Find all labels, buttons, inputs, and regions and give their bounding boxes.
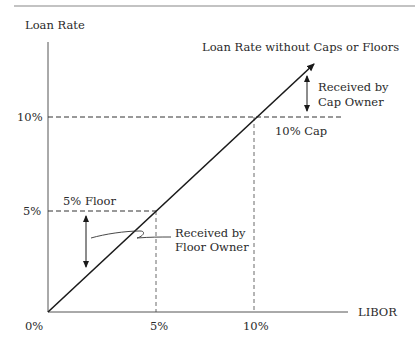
floor-label: 5% Floor — [63, 194, 116, 208]
y-tick-10: 10% — [17, 110, 43, 124]
x-tick-0: 0% — [25, 319, 43, 333]
floor-annotation-line1: Received by — [175, 226, 246, 240]
y-tick-5: 5% — [23, 204, 41, 218]
cap-label: 10% Cap — [275, 124, 327, 138]
cap-annotation-line1: Received by — [318, 80, 389, 94]
cap-annotation-line2: Cap Owner — [318, 95, 384, 109]
y-axis-label: Loan Rate — [25, 18, 85, 32]
x-tick-5: 5% — [150, 319, 168, 333]
x-axis-label: LIBOR — [358, 305, 397, 319]
loan-rate-line — [48, 64, 314, 312]
x-tick-10: 10% — [243, 319, 269, 333]
floor-annotation-line2: Floor Owner — [175, 240, 249, 254]
cap-floor-diagram: Loan Rate LIBOR 10% 5% 0% 5% 10% Loan Ra… — [0, 0, 415, 343]
line-label: Loan Rate without Caps or Floors — [202, 40, 399, 54]
